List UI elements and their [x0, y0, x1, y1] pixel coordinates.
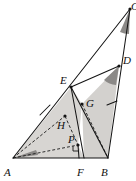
label-E: E: [59, 74, 67, 86]
label-P: P: [67, 133, 75, 145]
label-H: H: [56, 119, 66, 131]
dot-G: [80, 102, 83, 105]
label-F: F: [76, 166, 84, 178]
label-C: C: [131, 0, 136, 12]
label-A: A: [3, 166, 11, 178]
dot-D: [117, 64, 120, 67]
label-G: G: [86, 97, 94, 109]
dot-P: [76, 143, 79, 146]
geometry-figure: A B C D E F G H P: [0, 0, 136, 181]
label-D: D: [122, 54, 131, 66]
dot-E: [69, 85, 72, 88]
geometry-canvas: A B C D E F G H P: [0, 0, 136, 181]
dot-H: [63, 114, 66, 117]
label-B: B: [101, 166, 108, 178]
